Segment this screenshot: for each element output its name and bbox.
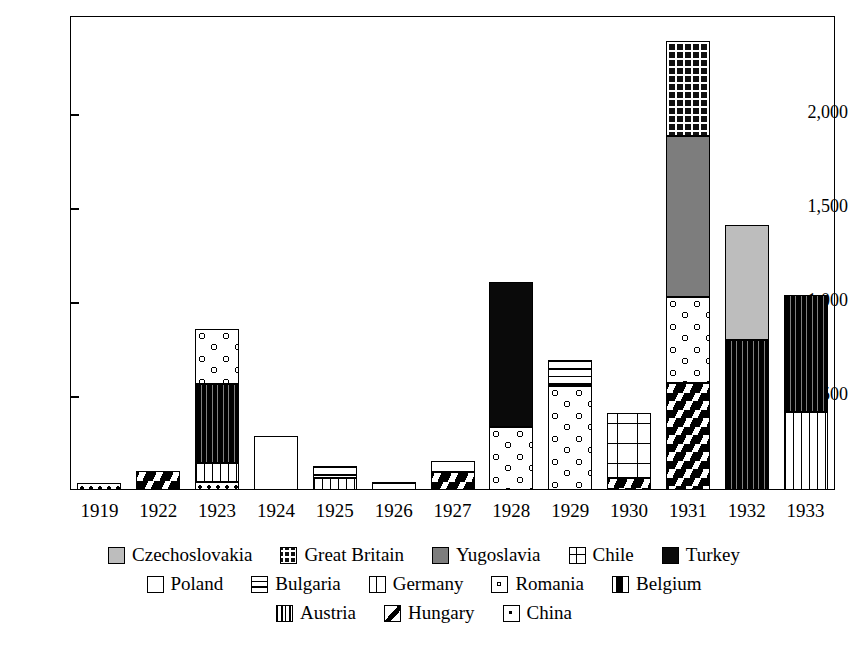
- x-axis-tick-label-1933: 1933: [776, 500, 835, 522]
- bar-segment-1923-germany: [195, 463, 239, 483]
- bar-segment-1932-belgium: [725, 340, 769, 490]
- bar-1933: [784, 295, 828, 490]
- bar-1925: [313, 466, 357, 490]
- legend-item-hungary[interactable]: Hungary: [384, 603, 474, 623]
- bar-segment-1929-bulgaria: [548, 360, 592, 385]
- bar-segment-1926-bulgaria: [372, 482, 416, 490]
- bar-segment-1928-turkey: [489, 282, 533, 427]
- x-axis-tick-label-1922: 1922: [129, 500, 188, 522]
- legend-swatch-romania: [491, 576, 508, 593]
- legend-item-germany[interactable]: Germany: [369, 574, 464, 594]
- legend-swatch-yugoslavia: [432, 547, 449, 564]
- legend-item-chile[interactable]: Chile: [569, 545, 634, 565]
- bar-segment-1931-austria: [666, 41, 710, 136]
- bar-segment-1933-germany: [784, 412, 828, 490]
- legend-label: Austria: [300, 603, 356, 623]
- legend-swatch-czechoslovakia: [108, 547, 125, 564]
- bar-1926: [372, 482, 416, 490]
- legend-swatch-turkey: [662, 547, 679, 564]
- legend-label: Chile: [593, 545, 634, 565]
- legend-label: Bulgaria: [275, 574, 340, 594]
- legend-swatch-great-britain: [280, 547, 297, 564]
- bar-segment-1929-romania: [548, 386, 592, 490]
- legend-swatch-belgium: [612, 576, 629, 593]
- bar-segment-1931-romania: [666, 297, 710, 383]
- x-axis-tick-label-1923: 1923: [188, 500, 247, 522]
- legend-label: Czechoslovakia: [132, 545, 252, 565]
- legend-label: Great Britain: [304, 545, 404, 565]
- x-axis-tick-label-1919: 1919: [70, 500, 129, 522]
- legend-swatch-austria: [276, 605, 293, 622]
- legend-item-china[interactable]: China: [503, 603, 572, 623]
- legend-item-bulgaria[interactable]: Bulgaria: [251, 574, 340, 594]
- bar-segment-1933-belgium: [784, 295, 828, 412]
- x-axis-tick-label-1927: 1927: [423, 500, 482, 522]
- x-axis-tick-label-1924: 1924: [247, 500, 306, 522]
- x-axis-tick-label-1930: 1930: [600, 500, 659, 522]
- bar-1919: [77, 483, 121, 490]
- legend-swatch-germany: [369, 576, 386, 593]
- bar-segment-1925-germany: [313, 478, 357, 490]
- x-axis-tick-label-1931: 1931: [658, 500, 717, 522]
- bar-segment-1931-hungary: [666, 383, 710, 490]
- x-axis-tick-label-1926: 1926: [364, 500, 423, 522]
- legend-label: Yugoslavia: [456, 545, 540, 565]
- bar-segment-1919-china: [77, 483, 121, 490]
- legend-label: Turkey: [686, 545, 740, 565]
- legend-row-3: AustriaHungaryChina: [0, 603, 848, 623]
- legend-label: Germany: [393, 574, 464, 594]
- legend-swatch-hungary: [384, 605, 401, 622]
- bar-1932: [725, 225, 769, 490]
- bar-segment-1930-hungary: [607, 478, 651, 490]
- bar-segment-1931-yugoslavia: [666, 136, 710, 298]
- legend-item-turkey[interactable]: Turkey: [662, 545, 740, 565]
- bar-1929: [548, 360, 592, 490]
- legend-swatch-chile: [569, 547, 586, 564]
- legend-swatch-poland: [147, 576, 164, 593]
- bar-segment-1925-bulgaria: [313, 466, 357, 478]
- x-axis-tick-label-1928: 1928: [482, 500, 541, 522]
- bar-segment-1930-chile: [607, 413, 651, 478]
- legend-label: Romania: [515, 574, 584, 594]
- legend-row-2: PolandBulgariaGermanyRomaniaBelgium: [0, 574, 848, 594]
- bar-segment-1922-hungary: [136, 471, 180, 490]
- bar-segment-1928-romania: [489, 427, 533, 490]
- bar-segment-1932-czechoslovakia: [725, 225, 769, 340]
- bar-1927: [431, 461, 475, 490]
- bar-1928: [489, 282, 533, 490]
- bar-segment-1924-poland: [254, 436, 298, 490]
- legend-item-czechoslovakia[interactable]: Czechoslovakia: [108, 545, 252, 565]
- legend-swatch-china: [503, 605, 520, 622]
- legend-item-poland[interactable]: Poland: [147, 574, 224, 594]
- legend-row-1: CzechoslovakiaGreat BritainYugoslaviaChi…: [0, 545, 848, 565]
- legend-label: China: [527, 603, 572, 623]
- stacked-bar-chart: 2,0001,5001,000500 191919221923192419251…: [0, 0, 848, 661]
- bar-segment-1923-romania: [195, 329, 239, 384]
- bar-segment-1923-belgium: [195, 384, 239, 463]
- bar-1923: [195, 329, 239, 490]
- legend-swatch-bulgaria: [251, 576, 268, 593]
- bar-segment-1927-poland: [431, 461, 475, 472]
- legend-label: Belgium: [636, 574, 701, 594]
- bar-1922: [136, 471, 180, 490]
- legend-item-austria[interactable]: Austria: [276, 603, 356, 623]
- x-axis-tick-label-1925: 1925: [305, 500, 364, 522]
- legend-item-romania[interactable]: Romania: [491, 574, 584, 594]
- legend-label: Poland: [171, 574, 224, 594]
- legend-item-greatbritain[interactable]: Great Britain: [280, 545, 404, 565]
- bar-1931: [666, 41, 710, 490]
- legend: CzechoslovakiaGreat BritainYugoslaviaChi…: [0, 545, 848, 632]
- legend-item-yugoslavia[interactable]: Yugoslavia: [432, 545, 540, 565]
- x-axis-tick-label-1932: 1932: [717, 500, 776, 522]
- x-axis-tick-label-1929: 1929: [541, 500, 600, 522]
- legend-item-belgium[interactable]: Belgium: [612, 574, 701, 594]
- legend-label: Hungary: [408, 603, 474, 623]
- bars-layer: [70, 16, 835, 490]
- bar-segment-1923-china: [195, 482, 239, 490]
- bar-1924: [254, 436, 298, 490]
- bar-1930: [607, 413, 651, 490]
- bar-segment-1927-hungary: [431, 472, 475, 490]
